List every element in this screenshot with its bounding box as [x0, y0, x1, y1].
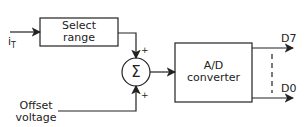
d7-label: D7 [281, 33, 296, 45]
plus-sign-top: + [141, 44, 149, 56]
d0-label: D0 [281, 83, 296, 95]
adc-label: A/Dconverter [175, 60, 252, 84]
plus-sign-bottom: + [141, 89, 149, 101]
offset-to-summer-arrow [58, 86, 136, 111]
offset-voltage-label: Offsetvoltage [14, 100, 58, 124]
range-to-summer-arrow [118, 33, 136, 58]
input-current-label: iT [8, 36, 16, 52]
select-range-label: Selectrange [40, 20, 118, 44]
sigma-symbol: Σ [126, 64, 146, 80]
